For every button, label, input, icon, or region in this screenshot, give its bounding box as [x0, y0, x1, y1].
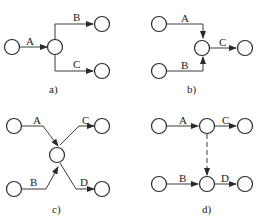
caption-a: a) [49, 83, 58, 96]
label-c-D: D [80, 176, 88, 188]
network-diagrams: A B C a) A B C b) A B C D c) [0, 0, 263, 224]
label-d-D: D [221, 172, 229, 184]
edge-b-A [166, 24, 203, 38]
label-a-A: A [26, 35, 34, 47]
panel-d: A C B D d) [152, 114, 253, 216]
label-d-C: C [222, 114, 229, 126]
node-d-4 [152, 177, 167, 192]
node-d-2 [200, 119, 215, 134]
node-d-6 [238, 177, 253, 192]
label-c-B: B [30, 176, 37, 188]
node-a-3 [95, 17, 110, 32]
node-d-1 [152, 119, 167, 134]
node-c-1 [7, 119, 22, 134]
node-b-3 [195, 41, 210, 56]
edge-c-C [60, 126, 94, 145]
edge-a-B [55, 24, 93, 40]
label-b-A: A [181, 12, 189, 24]
label-b-B: B [181, 59, 188, 71]
label-c-A: A [33, 114, 41, 126]
panel-c: A B C D c) [7, 114, 110, 216]
label-a-B: B [73, 11, 80, 23]
node-d-3 [238, 119, 253, 134]
node-c-5 [95, 182, 110, 197]
node-c-2 [7, 182, 22, 197]
panel-a: A B C a) [5, 11, 110, 96]
node-b-1 [152, 17, 167, 32]
node-b-4 [238, 41, 253, 56]
label-b-C: C [219, 36, 226, 48]
label-c-C: C [82, 114, 89, 126]
node-a-1 [5, 40, 20, 55]
node-b-2 [152, 64, 167, 79]
label-d-A: A [179, 114, 187, 126]
node-c-4 [95, 119, 110, 134]
node-a-4 [95, 64, 110, 79]
edge-c-D [60, 163, 94, 189]
node-d-5 [200, 177, 215, 192]
label-d-B: B [179, 172, 186, 184]
edge-c-B [21, 167, 58, 189]
edge-c-A [21, 126, 58, 146]
label-a-C: C [73, 58, 80, 70]
caption-b: b) [187, 83, 197, 96]
node-c-3 [50, 148, 65, 163]
node-a-2 [48, 40, 63, 55]
panel-b: A B C b) [152, 12, 253, 96]
caption-d: d) [202, 203, 212, 216]
caption-c: c) [52, 203, 61, 216]
